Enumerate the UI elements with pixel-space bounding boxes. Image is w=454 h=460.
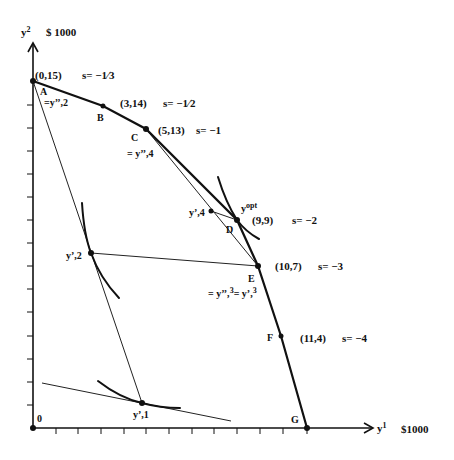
line-C-to-E [146,129,258,266]
slope-B: s= −1∕2 [163,97,196,109]
point-E [255,263,261,269]
point-y4 [209,209,214,214]
coord-A: (0,15) [35,69,62,82]
x-axis-ticks [56,428,307,434]
point-C [143,126,149,132]
label-C: C [131,132,138,143]
point-B [101,104,106,109]
label-y4: y’,4 [189,207,205,218]
indifference-curve-y2 [82,203,119,298]
y-axis-unit: $ 1000 [46,26,77,38]
label-D: D [226,224,233,235]
point-y2 [88,250,94,256]
slope-A: s= −1∕3 [82,69,115,81]
label-c-eq: = y’’,4 [127,148,154,159]
label-B: B [97,112,104,123]
point-D [234,217,240,223]
y-axis-label: y2 [21,25,31,38]
label-A: A [40,86,48,97]
label-y1: y’,1 [133,409,149,420]
label-a-eq: =y’’,2 [44,97,68,108]
line-y2-to-E [91,253,258,266]
label-yopt: yopt [241,201,257,214]
coord-D: (9,9) [252,214,273,227]
point-y1 [139,400,145,406]
point-F [279,334,284,339]
point-G [304,425,310,431]
label-E: E [248,273,255,284]
iterate-labels: =y’’,2 = y’’,4 = y’’,3= y’,3 y’,1 y’,2 y… [44,97,257,420]
label-y2: y’,2 [66,250,82,261]
coord-B: (3,14) [120,97,147,110]
slope-F: s= −4 [342,332,368,344]
slope-C: s= −1 [196,124,221,136]
label-F: F [267,332,273,343]
slope-E: s= −3 [318,260,344,272]
axes: y2 $ 1000 y1 $1000 0 [21,25,429,435]
y-axis-ticks [27,105,33,405]
coord-C: (5,13) [158,124,185,137]
point-origin [30,425,36,431]
slope-D: s= −2 [292,214,318,226]
label-G: G [291,414,299,425]
label-e-eq: = y’’,3= y’,3 [208,286,257,299]
coord-E: (10,7) [275,260,302,273]
coord-F: (11,4) [300,332,326,345]
x-axis-label: y1 [377,421,387,434]
x-axis-unit: $1000 [401,423,429,435]
production-possibility-diagram: y2 $ 1000 y1 $1000 0 [0,0,454,460]
origin-label: 0 [37,413,42,424]
